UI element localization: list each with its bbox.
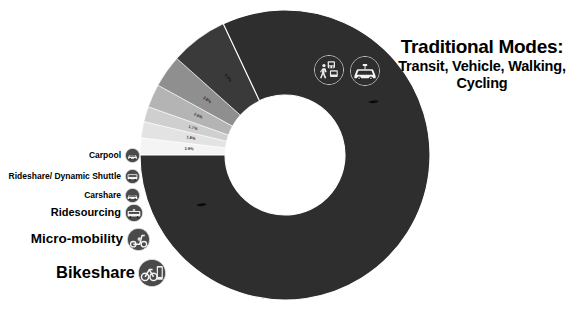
car-icon	[350, 56, 380, 86]
callout-label-carpool: Carpool	[89, 151, 121, 160]
traditional-modes-annotation: Traditional Modes: Transit, Vehicle, Wal…	[398, 36, 566, 92]
slice-percent-label: 1.9%	[185, 147, 194, 152]
ridesourcing-icon	[125, 204, 143, 222]
transit-pedestrian-icon	[314, 55, 344, 85]
callout-ridesourcing[interactable]: Ridesourcing	[6, 203, 143, 223]
callout-carpool[interactable]: Carpool	[10, 147, 140, 163]
carshare-icon	[125, 188, 140, 203]
callout-label-carshare: Carshare	[84, 191, 121, 200]
callout-label-bikeshare: Bikeshare	[56, 264, 135, 281]
scooter-icon	[127, 228, 150, 251]
figure-canvas: 1.9%1.8%1.7%2.6%3.6%6.4% Carpool Ridesha…	[0, 0, 570, 309]
callout-rideshare-dynamic-shuttle[interactable]: Rideshare/ Dynamic Shuttle	[10, 165, 140, 187]
callout-bikeshare[interactable]: Bikeshare	[20, 258, 166, 288]
callout-label-ridesourcing: Ridesourcing	[51, 207, 121, 219]
bikeshare-dock-icon	[138, 259, 166, 287]
rideshare-shuttle-icon	[125, 169, 140, 184]
callout-micro-mobility[interactable]: Micro-mobility	[2, 227, 150, 251]
carpool-icon	[125, 148, 140, 163]
callout-label-rideshare-dynamic-shuttle: Rideshare/ Dynamic Shuttle	[9, 172, 121, 181]
traditional-modes-heading: Traditional Modes:	[398, 36, 566, 57]
callout-label-micro-mobility: Micro-mobility	[31, 232, 123, 246]
donut-slice-group	[140, 10, 430, 300]
callout-carshare[interactable]: Carshare	[10, 187, 140, 203]
traditional-modes-subtext: Transit, Vehicle, Walking, Cycling	[398, 58, 566, 92]
